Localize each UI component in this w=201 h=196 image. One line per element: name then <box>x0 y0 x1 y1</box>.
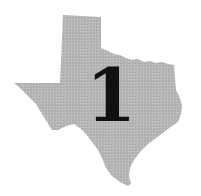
district-number-label: 1 <box>88 60 134 132</box>
map-canvas: 1 <box>0 0 201 196</box>
